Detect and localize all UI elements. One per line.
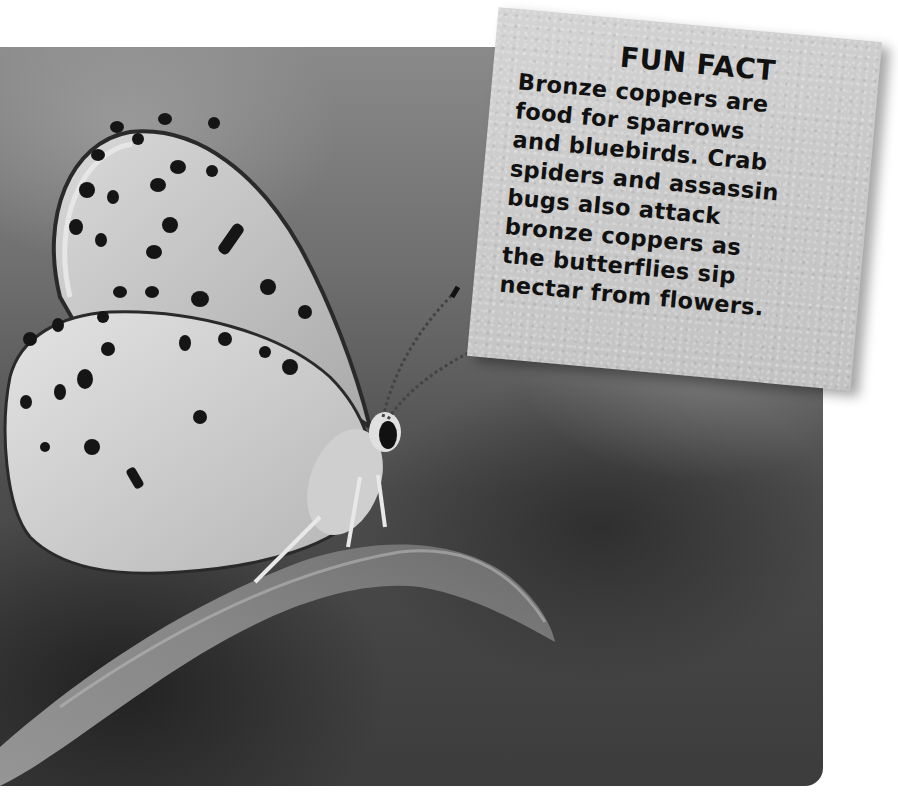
leaf: [0, 545, 555, 786]
fun-fact-card: FUN FACT Bronze coppers are food for spa…: [467, 7, 882, 390]
fun-fact-body: Bronze coppers are food for sparrows and…: [498, 67, 853, 328]
book-page: FUN FACT Bronze coppers are food for spa…: [0, 0, 898, 809]
